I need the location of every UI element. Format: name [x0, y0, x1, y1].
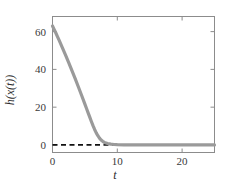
x-tick-label: 10 [112, 156, 123, 167]
x-tick-label: 0 [50, 156, 56, 167]
y-tick-label: 0 [14, 139, 46, 150]
y-axis-title: h(x(t)) [4, 58, 16, 122]
y-axis-title-text: h(x(t)) [3, 75, 17, 106]
x-axis-title-text: t [113, 168, 116, 182]
y-tick-label: 20 [14, 102, 46, 113]
chart-figure: 0204060 01020 h(x(t)) t [0, 0, 230, 192]
x-tick-label: 20 [177, 156, 188, 167]
y-tick-label: 60 [14, 26, 46, 37]
x-axis-title: t [0, 169, 230, 181]
y-tick-label: 40 [14, 64, 46, 75]
